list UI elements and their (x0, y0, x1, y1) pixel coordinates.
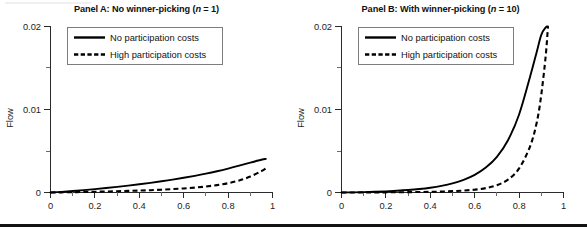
panel-b-yticklabel-0: 0 (327, 188, 332, 198)
panel-a-legend: No participation costs High participatio… (68, 28, 223, 65)
panel-a-ylabel: Flow (5, 108, 15, 128)
panel-b-xticklabel-5: 1 (561, 201, 566, 211)
panel-a-legend-label-0: No participation costs (110, 33, 199, 43)
panel-b: Panel B: With winner-picking (n = 10) 0.… (294, 0, 587, 212)
panel-b-xticklabel-4: 0.8 (513, 201, 526, 211)
panel-a-curve-no-participation-costs (51, 159, 266, 193)
panel-a-xticklabel-2: 0.4 (133, 201, 146, 211)
panel-a-xticklabel-5: 1 (270, 201, 275, 211)
panel-a-xticklabel-1: 0.2 (88, 201, 101, 211)
panel-a-yticklabel-2: 0.02 (23, 22, 41, 32)
panel-b-legend: No participation costs High participatio… (359, 28, 514, 65)
panel-b-yticklabel-1: 0.01 (314, 105, 332, 115)
figure-root: Panel A: No winner-picking (n = 1) 0.02 … (0, 0, 587, 235)
panel-a-xticklabel-4: 0.8 (222, 201, 235, 211)
panel-b-legend-label-1: High participation costs (401, 50, 497, 60)
panel-a-svg: 0.02 0.01 0 Flow 0 0.2 (0, 0, 293, 212)
panel-b-svg: 0.02 0.01 0 Flow 0 0.2 0.4 0.6 0.8 (294, 0, 587, 212)
panel-a-yticklabel-0: 0 (36, 188, 41, 198)
panel-b-xticklabel-1: 0.2 (379, 201, 392, 211)
panel-b-ylabel: Flow (296, 108, 306, 128)
bottom-horizontal-rule (0, 224, 587, 227)
panel-a-xticklabel-0: 0 (48, 201, 53, 211)
panel-b-legend-label-0: No participation costs (401, 33, 490, 43)
panel-b-xticklabel-3: 0.6 (468, 201, 481, 211)
panel-a-yticklabel-1: 0.01 (23, 105, 41, 115)
panel-b-yticklabel-2: 0.02 (314, 22, 332, 32)
panel-b-xticklabel-2: 0.4 (424, 201, 437, 211)
panel-b-plot-area: 0.02 0.01 0 Flow 0 0.2 0.4 0.6 0.8 (294, 0, 587, 212)
panel-a-legend-label-1: High participation costs (110, 50, 206, 60)
panel-a-plot-area: 0.02 0.01 0 Flow 0 0.2 (0, 0, 293, 212)
panel-a-xticklabel-3: 0.6 (177, 201, 190, 211)
panel-a-curve-high-participation-costs (51, 168, 266, 192)
panel-a: Panel A: No winner-picking (n = 1) 0.02 … (0, 0, 293, 212)
panel-b-xticklabel-0: 0 (339, 201, 344, 211)
